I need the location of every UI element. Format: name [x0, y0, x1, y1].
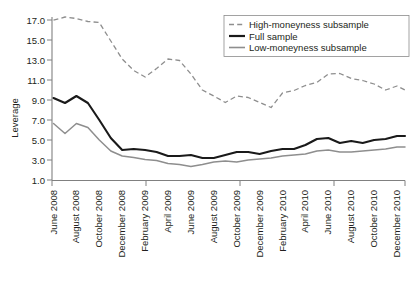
leverage-line-chart: Leverage 17.0 15.0 13.0 11.0 9.0 7.0 5.0… [0, 0, 415, 286]
y-axis-ticks [47, 20, 52, 180]
x-tick-label: June 2008 [48, 190, 59, 234]
legend-label: Full sample [249, 31, 298, 42]
legend-label: Low-moneyness subsample [249, 42, 367, 53]
full-sample-line [54, 96, 406, 158]
x-tick-label: October 2009 [231, 190, 242, 248]
y-axis-title: Leverage [9, 98, 20, 138]
chart-canvas: Leverage 17.0 15.0 13.0 11.0 9.0 7.0 5.0… [0, 0, 415, 286]
y-tick-label: 13.0 [27, 55, 46, 66]
x-tick-label: December 2008 [116, 190, 127, 258]
y-tick-label: 9.0 [32, 95, 45, 106]
x-tick-label: October 2010 [368, 190, 379, 248]
y-tick-label: 3.0 [32, 155, 45, 166]
x-tick-label: August 2009 [208, 190, 219, 243]
y-tick-label: 5.0 [32, 135, 45, 146]
y-axis-tick-labels: 17.0 15.0 13.0 11.0 9.0 7.0 5.0 3.0 1.0 [27, 15, 46, 186]
y-tick-label: 15.0 [27, 35, 46, 46]
y-tick-label: 7.0 [32, 115, 45, 126]
y-tick-label: 17.0 [27, 15, 46, 26]
x-tick-label: June 2009 [185, 190, 196, 234]
legend-item-low-moneyness[interactable]: Low-moneyness subsample [229, 42, 367, 53]
legend-label: High-moneyness subsample [249, 19, 369, 30]
x-tick-label: October 2008 [93, 190, 104, 248]
x-axis-ticks [52, 181, 405, 187]
x-tick-label: February 2010 [277, 190, 288, 252]
x-axis-tick-labels: June 2008 August 2008 October 2008 Decem… [48, 190, 403, 258]
x-tick-label: December 2009 [254, 190, 265, 258]
series-full-sample [54, 96, 406, 158]
x-tick-label: April 2009 [162, 190, 173, 233]
x-tick-label: August 2010 [345, 190, 356, 243]
legend-item-high-moneyness[interactable]: High-moneyness subsample [229, 19, 369, 30]
y-tick-label: 11.0 [27, 75, 45, 86]
x-tick-label: December 2010 [391, 190, 402, 258]
x-tick-label: February 2009 [139, 190, 150, 252]
x-tick-label: June 2010 [322, 190, 333, 234]
chart-legend[interactable]: High-moneyness subsample Full sample Low… [224, 16, 409, 57]
y-tick-label: 1.0 [32, 175, 45, 186]
x-tick-label: April 2010 [299, 190, 310, 233]
x-tick-label: August 2008 [70, 190, 81, 243]
